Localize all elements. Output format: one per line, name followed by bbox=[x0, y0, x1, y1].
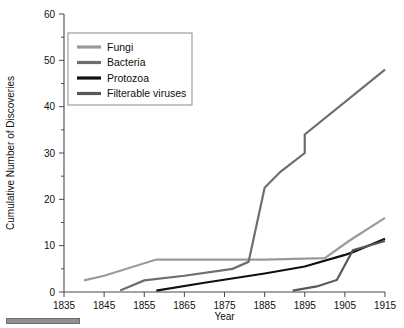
y-tick-label: 50 bbox=[44, 55, 56, 66]
y-tick-label: 30 bbox=[44, 148, 56, 159]
x-tick-label: 1905 bbox=[334, 300, 357, 311]
x-tick-label: 1835 bbox=[53, 300, 76, 311]
y-tick-label: 10 bbox=[44, 240, 56, 251]
x-tick-label: 1865 bbox=[173, 300, 196, 311]
y-tick-label: 20 bbox=[44, 194, 56, 205]
footer-bar bbox=[6, 318, 80, 324]
y-axis-title: Cumulative Number of Discoveries bbox=[5, 76, 16, 230]
line-chart: 0102030405060183518451855186518751885189… bbox=[0, 0, 404, 328]
x-tick-label: 1885 bbox=[254, 300, 277, 311]
x-axis-title: Year bbox=[214, 311, 235, 322]
series-line-protozoa bbox=[156, 239, 385, 291]
legend-label-bacteria: Bacteria bbox=[107, 56, 146, 68]
legend-label-fungi: Fungi bbox=[107, 41, 133, 53]
y-tick-label: 60 bbox=[44, 9, 56, 20]
x-tick-label: 1855 bbox=[133, 300, 156, 311]
y-tick-label: 0 bbox=[49, 287, 55, 298]
x-tick-label: 1915 bbox=[374, 300, 397, 311]
series-line-fungi bbox=[84, 218, 385, 281]
x-tick-label: 1845 bbox=[93, 300, 116, 311]
x-tick-label: 1875 bbox=[213, 300, 236, 311]
axis-titles: YearCumulative Number of Discoveries bbox=[5, 76, 235, 322]
y-tick-label: 40 bbox=[44, 101, 56, 112]
x-tick-label: 1895 bbox=[294, 300, 317, 311]
legend-label-filterable-viruses: Filterable viruses bbox=[107, 87, 186, 99]
legend-label-protozoa: Protozoa bbox=[107, 72, 149, 84]
chart-legend: FungiBacteriaProtozoaFilterable viruses bbox=[68, 33, 192, 105]
chart-container: 0102030405060183518451855186518751885189… bbox=[0, 0, 404, 328]
